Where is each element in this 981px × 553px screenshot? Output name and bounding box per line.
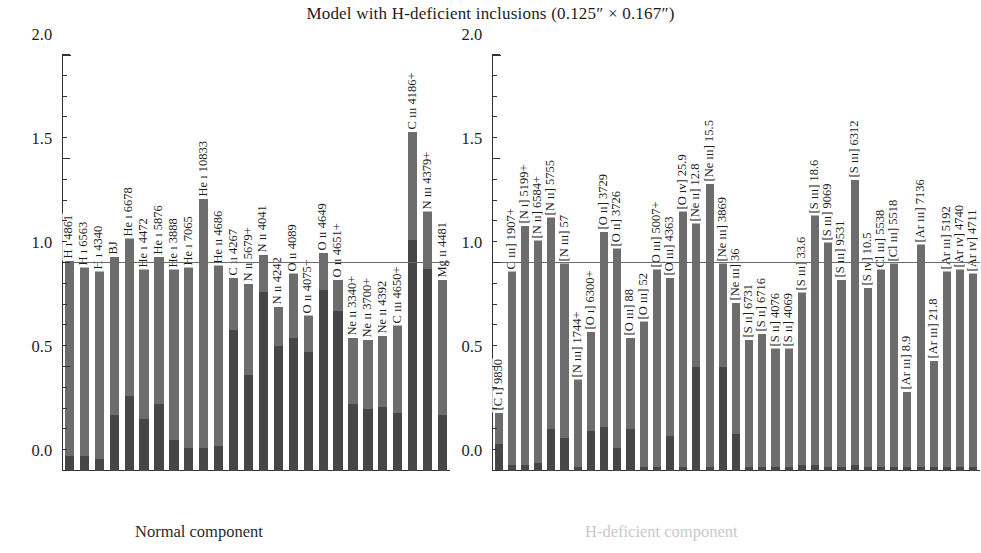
y-tick-minor bbox=[492, 408, 497, 409]
y-tick-minor bbox=[62, 283, 67, 284]
bar-slot: [O ıı] 3726 bbox=[611, 55, 624, 471]
bar-label: Cl ııı] 5538 bbox=[874, 209, 888, 270]
y-tick-minor bbox=[62, 408, 67, 409]
bar-slot: Ne ıı 4392 bbox=[375, 55, 390, 471]
bar-slot: C ııı] 1907+ bbox=[505, 55, 518, 471]
bar-slot: [Ne ıı] 12.8 bbox=[690, 55, 703, 471]
bar-slot: H ı 6563 bbox=[77, 55, 92, 471]
bar-label: [S ııı] 18.6 bbox=[808, 158, 822, 215]
bar-slot: C ııı 4650+ bbox=[390, 55, 405, 471]
bar-slot: O ıı 4075+ bbox=[301, 55, 316, 471]
bar bbox=[706, 184, 714, 471]
bar-label: [Ar ııı] 21.8 bbox=[927, 298, 941, 361]
bar-subcomponent bbox=[771, 467, 779, 471]
bar bbox=[679, 211, 687, 471]
bar-label: [Ne ııı] 36 bbox=[729, 247, 743, 302]
bar-label: [Ar ııı] 8.9 bbox=[901, 335, 915, 392]
bar-label: [O ııı] 5007+ bbox=[650, 200, 664, 269]
y-tick-minor bbox=[492, 449, 497, 450]
bar bbox=[824, 242, 832, 471]
bar-subcomponent bbox=[125, 396, 134, 471]
y-tick-minor bbox=[492, 116, 497, 117]
y-tick-minor bbox=[62, 200, 67, 201]
bar bbox=[785, 348, 793, 471]
bar-slot: [O ıv] 25.9 bbox=[677, 55, 690, 471]
bar-slot: [S ıv] 10.5 bbox=[861, 55, 874, 471]
bar-label: He ı 10833 bbox=[197, 140, 211, 199]
caption-normal-component: Normal component bbox=[135, 522, 263, 542]
bar-label: [Ar ıv] 4740 bbox=[953, 204, 967, 270]
bar-slot: [S ıı] 6716 bbox=[756, 55, 769, 471]
y-tick-label: 0.5 bbox=[32, 337, 59, 357]
y-tick-minor bbox=[62, 428, 67, 429]
bar-label: [Cl ııı] 5518 bbox=[887, 198, 901, 263]
bar-label: O ıı 4075+ bbox=[301, 258, 315, 315]
bar-subcomponent bbox=[229, 330, 238, 471]
bar-slot: [O ııı] 5007+ bbox=[650, 55, 663, 471]
bar-subcomponent bbox=[811, 465, 819, 471]
bar-label: [S ııı] 9069 bbox=[822, 182, 836, 242]
bar-slot: Mg ıı 4481 bbox=[435, 55, 450, 471]
bar-label: He ı 5876 bbox=[152, 204, 166, 256]
bar bbox=[600, 232, 608, 471]
bar-subcomponent bbox=[798, 465, 806, 471]
bar-subcomponent bbox=[587, 431, 595, 471]
y-tick-minor bbox=[62, 345, 67, 346]
bar-subcomponent bbox=[547, 429, 555, 471]
bar bbox=[613, 248, 621, 471]
y-tick-minor bbox=[492, 304, 497, 305]
bar-subcomponent bbox=[692, 367, 700, 471]
bar-subcomponent bbox=[943, 467, 951, 471]
bar-slot: [Cl ııı] 5518 bbox=[888, 55, 901, 471]
bar-subcomponent bbox=[864, 467, 872, 471]
bar-group-right: [C ı] 9850C ııı] 1907+[N ı] 5199+[N ıı] … bbox=[492, 55, 980, 471]
bar-subcomponent bbox=[259, 292, 268, 471]
bar bbox=[139, 269, 148, 471]
bar-slot: N ıı 4041 bbox=[256, 55, 271, 471]
y-tick-major bbox=[492, 470, 500, 471]
y-tick-minor bbox=[62, 324, 67, 325]
bar bbox=[903, 392, 911, 471]
y-tick-major bbox=[492, 158, 500, 159]
y-tick-label: 2.0 bbox=[32, 25, 59, 45]
bar-subcomponent bbox=[363, 409, 372, 471]
bar-subcomponent bbox=[348, 404, 357, 471]
bar-subcomponent bbox=[289, 338, 298, 471]
bar bbox=[560, 263, 568, 471]
bar bbox=[199, 199, 208, 471]
bar bbox=[333, 280, 342, 471]
y-tick-label: 1.0 bbox=[32, 233, 59, 253]
bar-subcomponent bbox=[613, 448, 621, 471]
bar bbox=[80, 267, 89, 471]
bar-slot: Cl ııı] 5538 bbox=[874, 55, 887, 471]
bar-slot: Ne ıı 3700+ bbox=[360, 55, 375, 471]
chart-panel-normal-component: H ı 4861H ı 6563H ı 4340BJHe ı 6678He ı … bbox=[62, 55, 450, 471]
bar-slot: He ı 5876 bbox=[152, 55, 167, 471]
bar bbox=[184, 267, 193, 471]
bar-slot: [O ııı] 52 bbox=[637, 55, 650, 471]
bar-label: [Ne ıı] 12.8 bbox=[690, 163, 704, 224]
bar bbox=[534, 240, 542, 471]
bar-subcomponent bbox=[521, 465, 529, 471]
bar-subcomponent bbox=[408, 240, 417, 471]
y-tick-major bbox=[62, 158, 70, 159]
y-tick-major bbox=[62, 262, 70, 263]
bar bbox=[943, 271, 951, 471]
bar bbox=[587, 332, 595, 471]
bar bbox=[259, 255, 268, 471]
bar-subcomponent bbox=[626, 429, 634, 471]
unity-reference-line-left bbox=[62, 262, 450, 263]
bar-slot: O ıı 4651+ bbox=[331, 55, 346, 471]
bar-label: [Ar ııı] 7136 bbox=[914, 178, 928, 244]
bar-subcomponent bbox=[139, 419, 148, 471]
bar-subcomponent bbox=[508, 465, 516, 471]
bar-subcomponent bbox=[393, 413, 402, 471]
bar-slot: [N ıı] 6584+ bbox=[532, 55, 545, 471]
bar-label: [Ne ııı] 3869 bbox=[716, 195, 730, 263]
y-tick-minor bbox=[492, 428, 497, 429]
bar-label: [O ı] 6300+ bbox=[584, 270, 598, 332]
y-tick-label: 1.0 bbox=[462, 233, 488, 253]
y-tick-label: 0.0 bbox=[32, 441, 59, 461]
bar-slot: BJ bbox=[107, 55, 122, 471]
y-tick-minor bbox=[62, 116, 67, 117]
